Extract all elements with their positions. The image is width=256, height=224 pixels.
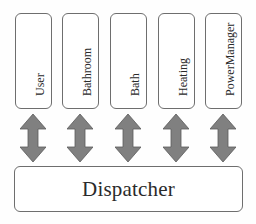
module-label-heating: Heating — [177, 58, 189, 96]
module-label-user: User — [34, 73, 46, 96]
module-label-bath: Bath — [129, 73, 141, 96]
module-box-bath: Bath — [110, 13, 147, 109]
double-arrow-icon — [210, 114, 236, 162]
module-box-powermanager: PowerManager — [205, 13, 242, 109]
double-arrow-icon — [163, 114, 189, 162]
diagram-canvas: User Bathroom Bath Heating PowerManager … — [0, 0, 256, 224]
dispatcher-box: Dispatcher — [14, 166, 243, 212]
dispatcher-label: Dispatcher — [82, 177, 175, 202]
module-box-heating: Heating — [158, 13, 195, 109]
module-box-user: User — [15, 13, 52, 109]
double-arrow-icon — [20, 114, 46, 162]
module-label-powermanager: PowerManager — [224, 23, 236, 96]
module-label-bathroom: Bathroom — [81, 48, 93, 96]
double-arrow-icon — [115, 114, 141, 162]
module-box-bathroom: Bathroom — [62, 13, 99, 109]
double-arrow-icon — [67, 114, 93, 162]
